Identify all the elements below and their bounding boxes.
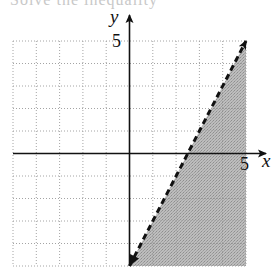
x-tick-label-5: 5 [240, 154, 249, 174]
x-axis-label: x [261, 150, 271, 171]
y-axis-label: y [108, 6, 119, 27]
y-tick-label-5: 5 [112, 31, 121, 51]
inequality-graph: y x 5 5 [0, 0, 277, 271]
